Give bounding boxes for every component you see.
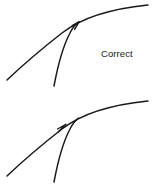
shallow-arc-incorrect (7, 101, 148, 176)
panel-correct: Correct (0, 0, 153, 96)
diagram-figure: Correct Incorrect (0, 0, 153, 193)
arrow-head-incorrect (58, 124, 67, 132)
panel-incorrect: Incorrect (0, 96, 153, 192)
steep-arrow-curve-incorrect (54, 118, 79, 182)
steep-arrow-curve-correct (54, 22, 79, 86)
shallow-arc-correct (7, 5, 148, 80)
incorrect-panel-drawing (0, 96, 153, 192)
label-correct: Correct (101, 48, 133, 59)
